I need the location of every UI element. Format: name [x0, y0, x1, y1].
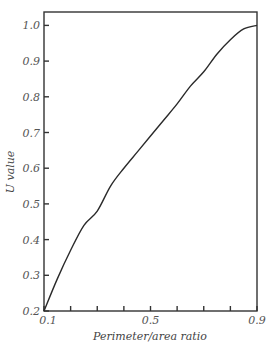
chart: 0.20.30.40.50.60.70.80.91.0 0.10.50.9 Pe…: [0, 0, 272, 347]
y-tick-label: 0.5: [23, 198, 41, 211]
y-tick-label: 0.6: [23, 162, 41, 175]
plot-frame: [44, 12, 257, 311]
x-tick-label: 0.5: [142, 314, 160, 327]
y-axis-ticks: 0.20.30.40.50.60.70.80.91.0: [23, 19, 50, 318]
y-tick-label: 1.0: [23, 19, 41, 32]
x-tick-label: 0.1: [39, 314, 57, 327]
x-tick-label: 0.9: [248, 314, 266, 327]
y-axis-title: U value: [4, 150, 17, 193]
y-tick-label: 0.8: [23, 91, 41, 104]
x-axis-ticks: 0.10.50.9: [39, 306, 266, 327]
series-line-u-value: [44, 25, 257, 311]
y-tick-label: 0.9: [23, 55, 41, 68]
y-tick-label: 0.2: [23, 305, 41, 318]
y-tick-label: 0.7: [23, 127, 41, 140]
x-axis-title: Perimeter/area ratio: [92, 330, 207, 343]
y-tick-label: 0.3: [23, 269, 41, 282]
y-tick-label: 0.4: [23, 234, 41, 247]
